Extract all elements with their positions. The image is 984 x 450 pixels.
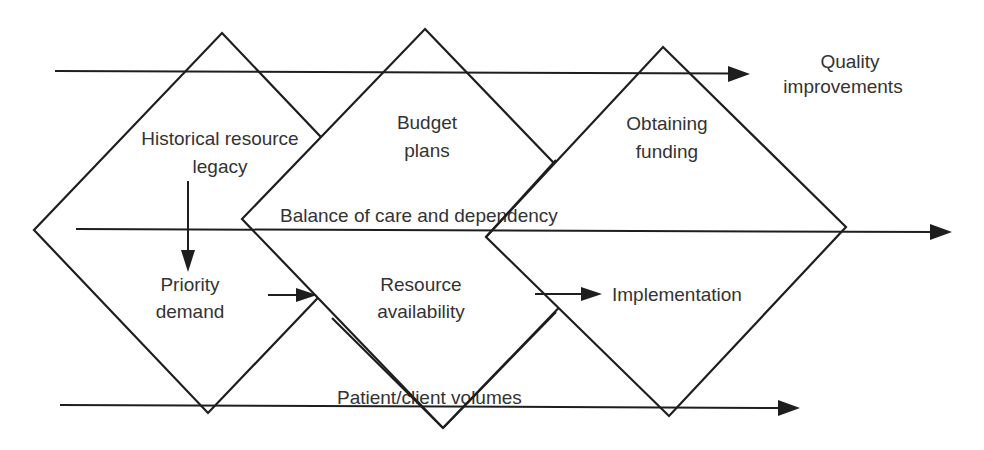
label-budget: Budget (397, 112, 458, 133)
label-plans: plans (404, 140, 449, 161)
label-improvements: improvements (783, 76, 902, 97)
label-quality: Quality (820, 51, 880, 72)
diagram-canvas: Quality improvements Historical resource… (0, 0, 984, 450)
label-obtaining: Obtaining (626, 113, 707, 134)
label-legacy: legacy (193, 156, 248, 177)
label-availability: availability (377, 301, 465, 322)
arrow-head-icon (728, 66, 750, 82)
label-balance-of-care: Balance of care and dependency (280, 205, 558, 226)
label-implementation: Implementation (612, 284, 742, 305)
label-demand: demand (156, 301, 225, 322)
arrow-head-icon (930, 224, 952, 240)
label-priority: Priority (160, 274, 220, 295)
label-resource: Resource (380, 274, 461, 295)
label-funding: funding (636, 141, 698, 162)
label-historical-resource: Historical resource (141, 128, 298, 149)
label-patient-client-volumes: Patient/client volumes (337, 387, 522, 408)
arrow-head-icon (778, 400, 800, 416)
